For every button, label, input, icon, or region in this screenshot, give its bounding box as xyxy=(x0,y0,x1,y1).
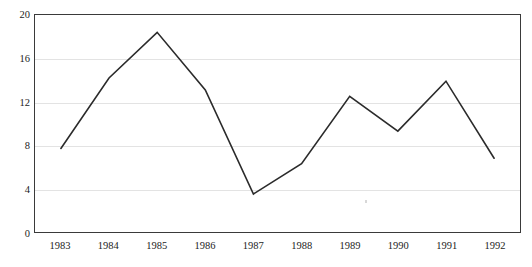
y-tick-label: 12 xyxy=(20,96,31,107)
chart-title xyxy=(16,0,316,5)
x-tick-label: 1990 xyxy=(388,240,409,251)
x-tick-label: 1992 xyxy=(485,240,506,251)
y-tick-label: 4 xyxy=(25,184,30,195)
x-tick-label: 1991 xyxy=(436,240,457,251)
x-tick-label: 1984 xyxy=(98,240,119,251)
y-tick-label: 0 xyxy=(25,228,30,239)
y-tick-label: 8 xyxy=(25,140,30,151)
x-axis: 1983198419851986198719881989199019911992 xyxy=(34,240,521,260)
data-series-svg xyxy=(35,15,520,232)
x-tick-label: 1988 xyxy=(291,240,312,251)
x-tick-label: 1986 xyxy=(195,240,216,251)
x-tick-label: 1983 xyxy=(50,240,71,251)
plot-area xyxy=(34,14,521,233)
scan-artifact xyxy=(365,200,367,203)
y-tick-label: 20 xyxy=(20,9,31,20)
x-tick-label: 1985 xyxy=(146,240,167,251)
y-axis: 201612840 xyxy=(0,14,30,233)
x-tick-label: 1987 xyxy=(243,240,264,251)
line-chart: 201612840 198319841985198619871988198919… xyxy=(0,0,532,267)
y-tick-label: 16 xyxy=(20,52,31,63)
x-tick-label: 1989 xyxy=(340,240,361,251)
data-line xyxy=(61,32,494,194)
